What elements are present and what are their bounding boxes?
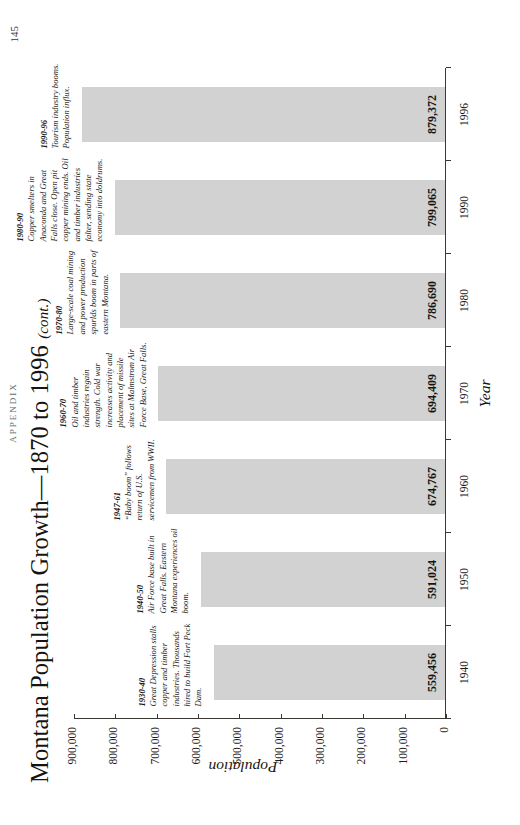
page-title: Montana Population Growth—1870 to 1996 (… — [26, 299, 54, 783]
x-tick-mark — [446, 253, 451, 254]
y-tick-mark — [198, 714, 199, 719]
x-tick-label: 1950 — [458, 550, 470, 610]
annotation-text: Air Force base built in Great Falls. Eas… — [146, 529, 190, 614]
bar — [201, 552, 445, 608]
x-tick-mark — [446, 160, 451, 161]
bar-value-label: 674,767 — [425, 447, 440, 527]
rotated-figure-frame: APPENDIX 145 Montana Population Growth—1… — [0, 0, 520, 825]
y-tick-mark — [322, 714, 323, 719]
bar-annotation: 1940-50Air Force base built in Great Fal… — [135, 528, 192, 614]
x-tick-label: 1996 — [458, 85, 470, 145]
x-tick-mark — [446, 718, 451, 719]
x-tick-label: 1980 — [458, 271, 470, 331]
bar — [214, 645, 445, 701]
bar-value-label: 591,024 — [425, 540, 440, 620]
y-tick-mark — [363, 714, 364, 719]
bar — [82, 87, 445, 143]
x-tick-label: 1940 — [458, 643, 470, 703]
bar-annotation: 1980-90Copper smelters in Anaconda and G… — [15, 156, 106, 242]
y-tick-label: 700,000 — [149, 727, 161, 764]
figure-title-suffix: (cont.) — [35, 299, 51, 339]
y-tick-label: 200,000 — [355, 727, 367, 764]
annotation-period: 1990-96 — [39, 63, 50, 149]
y-axis-line — [74, 718, 446, 719]
x-tick-label: 1960 — [458, 457, 470, 517]
annotation-text: Copper smelters in Anaconda and Great Fa… — [26, 158, 104, 241]
annotation-period: 1960-70 — [58, 342, 69, 428]
page-folio: APPENDIX — [8, 0, 18, 825]
bar-value-label: 559,456 — [425, 633, 440, 713]
y-tick-mark — [239, 714, 240, 719]
x-tick-mark — [446, 532, 451, 533]
x-tick-label: 1990 — [458, 178, 470, 238]
bar-annotation: 1947-61“Baby boom” follows return of U.S… — [112, 435, 157, 521]
annotation-text: “Baby boom” follows return of U.S. servi… — [123, 439, 156, 520]
x-tick-mark — [446, 625, 451, 626]
y-tick-label: 800,000 — [107, 727, 119, 764]
bar — [166, 459, 445, 515]
bar-value-label: 879,372 — [425, 75, 440, 155]
bar — [115, 180, 445, 236]
annotation-period: 1940-50 — [135, 528, 146, 614]
bar-annotation: 1930-40Great Depression stalls copper an… — [137, 621, 205, 707]
y-tick-mark — [405, 714, 406, 719]
page-number: 145 — [8, 26, 20, 43]
bar-chart: 0100,000200,000300,000400,000500,000600,… — [74, 68, 446, 719]
y-tick-mark — [281, 714, 282, 719]
bar — [120, 273, 445, 329]
y-axis-title: Population — [163, 758, 323, 776]
annotation-text: Tourism industry booms. Population influ… — [50, 64, 71, 149]
bar-value-label: 799,065 — [425, 168, 440, 248]
bar-value-label: 786,690 — [425, 261, 440, 341]
x-axis-line — [445, 68, 446, 719]
annotation-period: 1930-40 — [137, 621, 148, 707]
y-tick-label: 100,000 — [397, 727, 409, 764]
annotation-period: 1947-61 — [112, 435, 123, 521]
figure-title-main: Montana Population Growth—1870 to 1996 — [26, 345, 53, 783]
annotation-text: Oil and timber industries regain strengt… — [70, 342, 148, 427]
x-tick-mark — [446, 439, 451, 440]
annotation-text: Great Depression stalls copper and timbe… — [148, 624, 203, 707]
x-tick-mark — [446, 346, 451, 347]
bar-annotation: 1960-70Oil and timber industries regain … — [58, 342, 149, 428]
bar-annotation: 1990-96Tourism industry booms. Populatio… — [39, 63, 73, 149]
annotation-text: Large-scale coal mining and power produc… — [65, 250, 109, 334]
x-tick-label: 1970 — [458, 364, 470, 424]
bar-annotation: 1970-80Large-scale coal mining and power… — [54, 249, 111, 335]
x-tick-mark — [446, 67, 451, 68]
y-tick-label: 0 — [438, 727, 450, 733]
bar — [158, 366, 445, 422]
annotation-period: 1980-90 — [15, 156, 26, 242]
y-tick-mark — [157, 714, 158, 719]
y-tick-mark — [74, 714, 75, 719]
x-axis-title: Year — [476, 68, 494, 719]
y-tick-label: 900,000 — [66, 727, 78, 764]
annotation-period: 1970-80 — [54, 249, 65, 335]
y-tick-mark — [115, 714, 116, 719]
bar-value-label: 694,409 — [425, 354, 440, 434]
